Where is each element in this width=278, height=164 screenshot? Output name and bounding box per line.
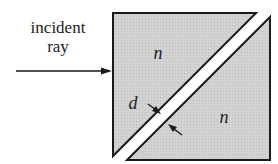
lower-prism-index-label: n (216, 108, 232, 126)
gap-thickness-label: d (125, 94, 141, 112)
incident-label-line1: incident (18, 19, 98, 37)
incident-label-line2: ray (18, 38, 98, 56)
upper-prism-index-label: n (150, 44, 166, 62)
incident-ray-arrow (16, 68, 112, 75)
